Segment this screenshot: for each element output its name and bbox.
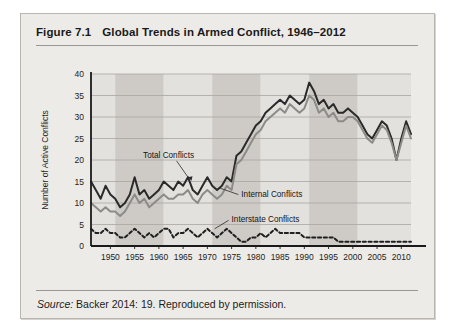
svg-text:15: 15	[75, 177, 85, 187]
series-annotation: Interstate Conflicts	[232, 215, 300, 224]
svg-text:1950: 1950	[101, 252, 120, 262]
y-tick-labels: 0510152025303540	[75, 69, 85, 251]
source-note: Source: Backer 2014: 19. Reproduced by p…	[37, 298, 286, 310]
figure-title-text: Global Trends in Armed Conflict, 1946–20…	[102, 26, 345, 38]
svg-text:30: 30	[75, 112, 85, 122]
series-annotation: Total Conflicts	[143, 151, 194, 160]
svg-text:1985: 1985	[271, 252, 290, 262]
svg-text:40: 40	[75, 69, 85, 79]
svg-text:1975: 1975	[222, 252, 241, 262]
y-axis-title: Number of Active Conflicts	[40, 110, 50, 210]
source-divider	[36, 290, 418, 291]
svg-text:20: 20	[75, 155, 85, 165]
svg-text:1960: 1960	[149, 252, 168, 262]
svg-text:2010: 2010	[392, 252, 411, 262]
svg-text:5: 5	[79, 220, 84, 230]
figure-title: Figure 7.1Global Trends in Armed Conflic…	[36, 26, 346, 38]
svg-text:1980: 1980	[246, 252, 265, 262]
figure-card: Figure 7.1Global Trends in Armed Conflic…	[20, 13, 435, 319]
figure-number: Figure 7.1	[36, 26, 91, 38]
svg-text:2000: 2000	[343, 252, 362, 262]
chart-plot: 0510152025303540 19501955196019651970197…	[32, 50, 426, 282]
armed-conflict-line-chart: 0510152025303540 19501955196019651970197…	[32, 50, 426, 282]
svg-text:1970: 1970	[198, 252, 217, 262]
svg-text:0: 0	[79, 241, 84, 251]
svg-text:1965: 1965	[174, 252, 193, 262]
svg-text:1955: 1955	[125, 252, 144, 262]
svg-text:1990: 1990	[295, 252, 314, 262]
svg-text:35: 35	[75, 91, 85, 101]
svg-text:2005: 2005	[368, 252, 387, 262]
svg-text:25: 25	[75, 134, 85, 144]
svg-text:1995: 1995	[319, 252, 338, 262]
x-tick-labels: 1950195519601965197019751980198519901995…	[101, 252, 411, 262]
series-annotation: Internal Conflicts	[241, 190, 302, 199]
source-prefix: Source:	[37, 298, 73, 310]
svg-text:10: 10	[75, 198, 85, 208]
title-divider	[36, 45, 418, 46]
source-text: Backer 2014: 19. Reproduced by permissio…	[76, 298, 286, 310]
